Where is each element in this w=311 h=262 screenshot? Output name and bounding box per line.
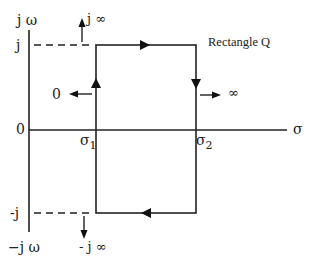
sigma-axis-label: σ: [293, 122, 303, 136]
rectangle-q: [96, 45, 196, 213]
arrow-right-top-edge-icon: [140, 40, 150, 50]
neg-j-infinity-label: - j ∞: [79, 240, 107, 253]
sigma1-label: σ1: [80, 133, 97, 147]
rectangle-q-title: Rectangle Q: [208, 36, 270, 49]
j-infinity-label: j ∞: [87, 12, 106, 25]
arrow-up-left-edge-icon: [91, 78, 101, 88]
infinity-mapping-label: ∞: [228, 86, 239, 99]
j-omega-label: j ω: [17, 13, 37, 27]
arrow-left-bottom-edge-icon: [141, 208, 151, 218]
neg-j-tick-label: -j: [10, 206, 19, 220]
arrow-left-zero-icon: [69, 91, 78, 98]
arrow-down-neg-j-infinity-icon: [81, 230, 88, 239]
arrow-down-right-edge-icon: [191, 79, 201, 89]
sigma2-label: σ2: [196, 133, 213, 147]
neg-j-omega-label: −j ω: [8, 240, 40, 254]
arrow-right-infinity-icon: [212, 92, 221, 99]
zero-mapping-label: 0: [52, 87, 61, 101]
arrow-up-j-infinity-icon: [79, 18, 86, 27]
j-tick-label: j: [16, 38, 20, 52]
origin-label: 0: [16, 122, 25, 136]
